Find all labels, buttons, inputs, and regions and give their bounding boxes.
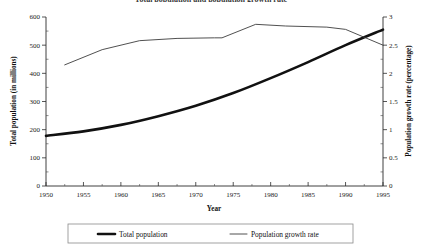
x-axis: 1950195519601965197019751980198519901995…: [39, 182, 391, 213]
x-tick-label: 1995: [376, 191, 391, 199]
legend-label-1: Total population: [119, 230, 168, 239]
x-axis-ticks: [46, 182, 383, 186]
right-tick-label: 0: [389, 182, 393, 190]
left-axis-title: Total population (in millions): [10, 56, 18, 146]
right-tick-label: 1.5: [389, 98, 398, 106]
left-tick-label: 300: [30, 98, 41, 106]
left-axis-tick-labels: 0100200300400500600: [30, 13, 41, 190]
right-axis-ticks: [381, 17, 388, 186]
x-tick-label: 1985: [301, 191, 316, 199]
right-tick-label: 2: [389, 70, 393, 78]
x-axis-tick-labels: 1950195519601965197019751980198519901995: [39, 191, 391, 199]
chart-figure: Total population and population growth r…: [0, 0, 422, 248]
chart-canvas: 0100200300400500600 Total population (in…: [0, 0, 422, 248]
x-axis-title: Year: [207, 205, 222, 213]
right-axis-title: Population growth rate (percentage): [405, 45, 413, 157]
x-tick-label: 1980: [264, 191, 279, 199]
left-tick-label: 400: [30, 70, 41, 78]
right-axis-tick-labels: 00.511.522.53: [389, 13, 398, 190]
legend: Total populationPopulation growth rate: [68, 224, 353, 243]
right-tick-label: 3: [389, 13, 393, 21]
x-tick-label: 1975: [226, 191, 241, 199]
left-tick-label: 100: [30, 154, 41, 162]
series-layer: [46, 24, 383, 136]
series-line-1: [46, 30, 383, 136]
x-tick-label: 1960: [114, 191, 129, 199]
x-tick-label: 1990: [339, 191, 354, 199]
left-axis: 0100200300400500600 Total population (in…: [10, 13, 49, 190]
x-tick-label: 1970: [189, 191, 204, 199]
right-tick-label: 2.5: [389, 42, 398, 50]
x-tick-label: 1950: [39, 191, 54, 199]
right-axis: 00.511.522.53 Population growth rate (pe…: [381, 13, 414, 190]
left-tick-label: 600: [30, 13, 41, 21]
series-line-2: [65, 24, 383, 65]
right-tick-label: 0.5: [389, 154, 398, 162]
right-tick-label: 1: [389, 126, 393, 134]
legend-label-2: Population growth rate: [251, 230, 319, 239]
left-tick-label: 500: [30, 42, 41, 50]
x-tick-label: 1965: [151, 191, 166, 199]
left-tick-label: 200: [30, 126, 41, 134]
left-tick-label: 0: [37, 182, 41, 190]
x-tick-label: 1955: [76, 191, 91, 199]
left-axis-ticks: [42, 17, 49, 186]
